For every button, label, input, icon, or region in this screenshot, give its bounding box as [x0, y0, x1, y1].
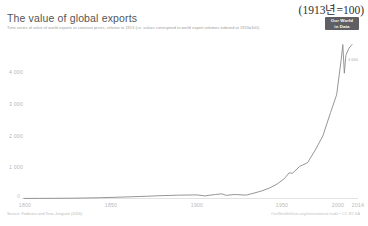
x-tick-label-1950: 1950	[276, 202, 288, 208]
index-base-annotation: (1913년=100)	[299, 1, 364, 17]
source-note: Source: Federico and Tena-Junguito (2016…	[7, 212, 82, 216]
page-title: The value of global exports	[7, 12, 137, 24]
x-tick-label-2014: 2014	[352, 202, 364, 208]
y-tick-label-3000: 3 000	[9, 101, 23, 107]
x-tick-label-1850: 1850	[105, 202, 117, 208]
chart-subtitle: Time series of value of world exports at…	[7, 25, 297, 30]
x-tick-label-2000: 2000	[332, 202, 344, 208]
x-tick-label-1800: 1800	[19, 202, 31, 208]
logo-line-2: in Data	[334, 24, 349, 29]
x-tick-label-1900: 1900	[191, 202, 203, 208]
our-world-in-data-logo[interactable]: Our World in Data	[325, 17, 359, 30]
y-tick-label-4000: 4 000	[9, 69, 23, 75]
attribution-note[interactable]: OurWorldInData.org/international-trade •…	[271, 212, 360, 216]
y-tick-label-0: 0	[17, 193, 20, 199]
y-tick-label-1000: 1 000	[9, 164, 23, 170]
chart-plot-area	[0, 0, 368, 226]
exports-line-series	[24, 45, 352, 199]
y-tick-label-2000: 2 000	[9, 133, 23, 139]
series-end-value-label: 4 666	[348, 57, 358, 62]
